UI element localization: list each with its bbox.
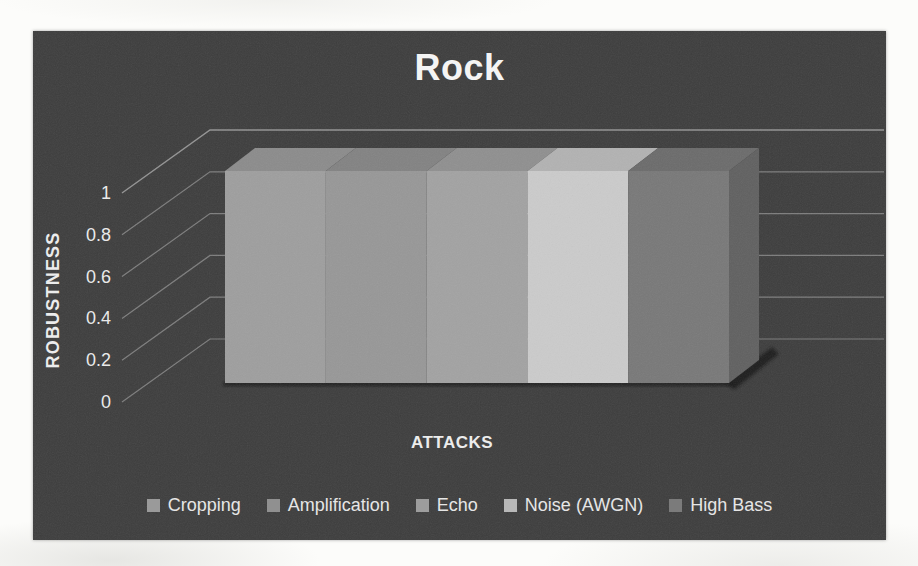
- chart-title: Rock: [33, 47, 886, 89]
- legend-item-noise-awgn-: Noise (AWGN): [504, 495, 643, 516]
- legend-swatch: [267, 499, 280, 512]
- legend-label: Amplification: [288, 495, 390, 516]
- legend-swatch: [147, 499, 160, 512]
- x-axis-title: ATTACKS: [411, 433, 493, 453]
- legend-label: Echo: [437, 495, 478, 516]
- legend-label: Cropping: [168, 495, 241, 516]
- y-axis-title: ROBUSTNESS: [43, 231, 64, 368]
- legend-item-echo: Echo: [416, 495, 478, 516]
- photo-background: 00.20.40.60.81 Rock ROBUSTNESS ATTACKS C…: [0, 0, 918, 566]
- legend-swatch: [504, 499, 517, 512]
- legend-item-amplification: Amplification: [267, 495, 390, 516]
- legend-label: High Bass: [690, 495, 772, 516]
- grain-overlay: [33, 31, 886, 540]
- legend-swatch: [669, 499, 682, 512]
- legend-item-cropping: Cropping: [147, 495, 241, 516]
- legend: CroppingAmplificationEchoNoise (AWGN)Hig…: [33, 495, 886, 516]
- legend-label: Noise (AWGN): [525, 495, 643, 516]
- legend-swatch: [416, 499, 429, 512]
- chart-area: 00.20.40.60.81 Rock ROBUSTNESS ATTACKS C…: [33, 31, 886, 540]
- plot-3d: 00.20.40.60.81: [33, 31, 886, 540]
- legend-item-high-bass: High Bass: [669, 495, 772, 516]
